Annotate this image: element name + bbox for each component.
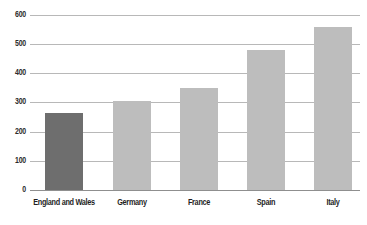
bar-chart: 0100200300400500600 England and WalesGer… (0, 0, 367, 225)
bar-italy[interactable] (314, 27, 352, 190)
x-axis-label-england-and-wales: England and Wales (25, 198, 102, 207)
bar-spain[interactable] (247, 50, 285, 190)
x-axis-label-germany: Germany (93, 198, 170, 207)
bar-england-and-wales[interactable] (45, 113, 83, 190)
bar-germany[interactable] (113, 101, 151, 190)
bar-france[interactable] (180, 88, 218, 190)
x-axis-label-spain: Spain (227, 198, 304, 207)
x-axis-label-italy: Italy (294, 198, 367, 207)
x-axis-label-france: France (160, 198, 237, 207)
plot-area (0, 0, 367, 225)
